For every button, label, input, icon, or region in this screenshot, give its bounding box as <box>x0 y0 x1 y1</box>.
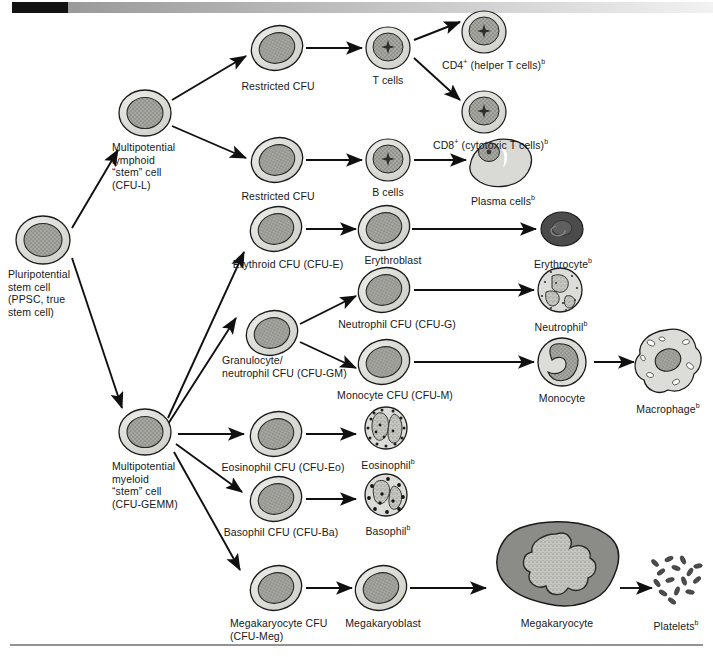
label-cd8-text: CD8 <box>433 139 454 151</box>
label-eosinophil-text: Eosinophil <box>361 459 410 471</box>
cell-t-cells <box>366 27 410 69</box>
cell-cfu-ba <box>244 470 307 528</box>
label-cfu-gm: Granulocyte/ neutrophil CFU (CFU-GM) <box>222 354 347 379</box>
cell-restricted-cfu-b <box>245 131 308 189</box>
cell-ppsc <box>16 216 70 264</box>
label-cd4: CD4+ (helper T cells)b <box>442 56 545 71</box>
cell-neutrophil <box>538 268 582 312</box>
label-monocyte: Monocyte <box>539 392 585 405</box>
header-black-bar <box>12 2 68 13</box>
label-restricted-cfu-t: Restricted CFU <box>241 80 314 93</box>
label-basophil-footnote: b <box>407 524 411 531</box>
header-gradient-bar <box>68 2 713 13</box>
label-restricted-cfu-b: Restricted CFU <box>241 190 314 203</box>
cell-cfu-g <box>352 261 415 319</box>
label-cfu-m: Monocyte CFU (CFU-M) <box>337 389 453 402</box>
cell-cfu-l <box>119 90 171 136</box>
cell-erythroblast <box>352 199 415 257</box>
label-basophil: Basophilb <box>365 522 410 537</box>
label-erythroblast: Erythroblast <box>364 254 421 267</box>
label-platelets-footnote: b <box>695 619 699 626</box>
label-eosinophil: Eosinophilb <box>361 456 414 471</box>
label-cfu-l: Multipotential lymphoid “stem” cell (CFU… <box>112 141 175 191</box>
label-cfu-gemm: Multipotential myeloid “stem” cell (CFU-… <box>112 460 178 510</box>
label-cd8-footnote: b <box>544 138 548 145</box>
arrow-ppsc-to-cfugemm <box>72 258 122 408</box>
cell-erythroid-cfu <box>244 200 307 258</box>
cell-cd4-helper-t <box>462 11 506 53</box>
label-erythrocyte: Erythrocyteb <box>534 255 592 270</box>
label-neutrophil-footnote: b <box>583 320 587 327</box>
label-basophil-text: Basophil <box>365 525 406 537</box>
label-b-cells: B cells <box>372 186 404 199</box>
label-erythrocyte-footnote: b <box>588 257 592 264</box>
label-macrophage: Macrophageb <box>636 400 699 415</box>
label-plasma-cells-text: Plasma cells <box>471 195 531 207</box>
cell-cfu-m <box>352 333 415 391</box>
label-plasma-cells: Plasma cellsb <box>471 192 535 207</box>
label-cd4-text: CD4 <box>442 59 463 71</box>
label-neutrophil: Neutrophilb <box>535 318 588 333</box>
label-neutrophil-text: Neutrophil <box>535 321 584 333</box>
label-platelets: Plateletsb <box>653 617 698 632</box>
arrow-cful-to-restrictedcfu-t <box>172 56 246 100</box>
cell-megakaryoblast <box>349 559 412 617</box>
label-plasma-cells-footnote: b <box>531 194 535 201</box>
cell-monocyte <box>538 338 586 386</box>
label-cfu-eo: Eosinophil CFU (CFU-Eo) <box>221 461 344 474</box>
arrow-cful-to-restrictedcfu-b <box>172 126 246 158</box>
label-platelets-text: Platelets <box>653 620 694 632</box>
label-eosinophil-footnote: b <box>411 458 415 465</box>
label-cfu-meg: Megakaryocyte CFU (CFU-Meg) <box>230 617 327 642</box>
cell-eosinophil <box>365 407 407 449</box>
label-macrophage-footnote: b <box>696 402 700 409</box>
label-megakaryocyte: Megakaryocyte <box>521 617 594 630</box>
label-ppsc: Pluripotential stem cell (PPSC, true ste… <box>8 268 70 318</box>
label-cd8-rest: (cytotoxic T cells) <box>459 139 545 151</box>
figure-canvas: Pluripotential stem cell (PPSC, true ste… <box>0 0 713 657</box>
label-cfu-ba: Basophil CFU (CFU-Ba) <box>224 526 339 539</box>
cell-b-cells <box>366 139 410 181</box>
cell-megakaryocyte <box>497 522 619 606</box>
cell-platelets <box>650 555 702 605</box>
label-erythroid-cfu: Erythroid CFU (CFU-E) <box>233 258 344 271</box>
label-macrophage-text: Macrophage <box>636 403 695 415</box>
cell-cd8-cytotoxic-t <box>462 91 506 133</box>
cell-cfu-meg <box>244 559 307 617</box>
label-cfu-g: Neutrophil CFU (CFU-G) <box>338 318 456 331</box>
cell-erythrocyte <box>541 212 583 246</box>
cell-cfu-eo <box>244 405 307 463</box>
label-cd8: CD8+ (cytotoxic T cells)b <box>433 136 548 151</box>
label-t-cells: T cells <box>373 74 404 87</box>
arrow-cfugemm-to-erythroidcfu <box>168 252 244 418</box>
label-erythrocyte-text: Erythrocyte <box>534 258 588 270</box>
cell-macrophage <box>635 329 701 392</box>
label-cd4-footnote: b <box>541 58 545 65</box>
label-cd4-rest: (helper T cells) <box>468 59 542 71</box>
cell-basophil <box>365 474 407 516</box>
cell-cfu-gemm <box>119 409 171 455</box>
label-megakaryoblast: Megakaryoblast <box>345 617 421 630</box>
cell-restricted-cfu-t <box>245 19 308 77</box>
arrow-tcells-to-cd4 <box>414 22 460 40</box>
